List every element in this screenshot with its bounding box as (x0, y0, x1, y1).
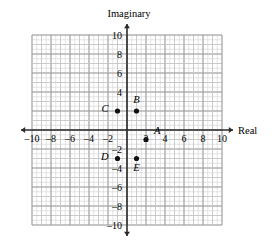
data-point-label-c: C (101, 103, 109, 114)
x-tick-label: –6 (64, 133, 75, 144)
data-point-a (143, 137, 148, 142)
x-tick-label: 8 (201, 133, 206, 144)
y-tick-label: 10 (112, 30, 122, 41)
x-axis-title: Real (238, 125, 257, 136)
complex-plane-figure: –10–8–6–4–2246810 10864–2–4–6–8–10 Real … (0, 0, 276, 251)
data-point-label-e: E (132, 162, 140, 173)
y-tick-label: –4 (111, 163, 122, 174)
y-tick-label: 6 (117, 68, 122, 79)
data-point-d (115, 156, 120, 161)
y-tick-label: 4 (117, 87, 122, 98)
data-point-b (134, 108, 139, 113)
y-tick-label: –6 (111, 182, 122, 193)
data-point-c (115, 108, 120, 113)
x-tick-label: –8 (45, 133, 56, 144)
x-tick-label: 4 (163, 133, 168, 144)
y-tick-label: –8 (111, 201, 122, 212)
data-point-label-a: A (153, 125, 161, 136)
y-tick-label: –10 (106, 220, 122, 231)
x-tick-label: –2 (102, 133, 113, 144)
data-point-label-b: B (133, 94, 140, 105)
y-tick-label: 8 (117, 49, 122, 60)
data-point-e (134, 156, 139, 161)
complex-plane-plot: –10–8–6–4–2246810 10864–2–4–6–8–10 Real … (0, 0, 276, 251)
x-tick-label: –10 (24, 133, 40, 144)
x-tick-label: 10 (217, 133, 227, 144)
x-tick-label: 6 (182, 133, 187, 144)
data-point-label-d: D (100, 151, 109, 162)
y-tick-label: –2 (111, 144, 122, 155)
x-tick-label: –4 (83, 133, 94, 144)
y-axis-title: Imaginary (107, 8, 151, 19)
